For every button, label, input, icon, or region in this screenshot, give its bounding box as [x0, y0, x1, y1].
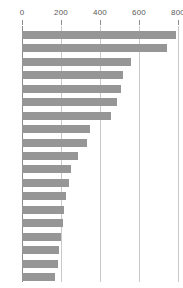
bar	[22, 125, 90, 133]
x-axis-tick-labels: 0 200 400 600 800	[0, 8, 183, 20]
bar-series	[22, 26, 178, 282]
x-tick-label-200: 200	[54, 8, 68, 18]
bar	[22, 58, 131, 66]
bar-chart: 0 200 400 600 800	[0, 0, 183, 288]
bar	[22, 71, 123, 79]
x-tick-label-800: 800	[171, 8, 183, 18]
x-tick-label-600: 600	[132, 8, 146, 18]
bar	[22, 165, 71, 173]
bar	[22, 31, 176, 39]
tick-mark-200	[61, 20, 62, 25]
x-tick-label-0: 0	[20, 8, 25, 18]
gridline-800	[178, 26, 179, 282]
bar	[22, 139, 87, 147]
tick-mark-0	[22, 20, 23, 25]
bar	[22, 98, 117, 106]
bar	[22, 112, 111, 120]
bar	[22, 206, 64, 214]
bar	[22, 192, 66, 200]
tick-mark-600	[139, 20, 140, 25]
bar	[22, 179, 69, 187]
tick-mark-800	[178, 20, 179, 25]
bar	[22, 152, 78, 160]
bar	[22, 44, 167, 52]
tick-mark-400	[100, 20, 101, 25]
bar	[22, 246, 59, 254]
plot-area	[22, 26, 178, 282]
bar	[22, 260, 58, 268]
bar	[22, 85, 121, 93]
bar	[22, 233, 61, 241]
x-tick-label-400: 400	[93, 8, 107, 18]
bar	[22, 273, 55, 281]
bar	[22, 219, 63, 227]
